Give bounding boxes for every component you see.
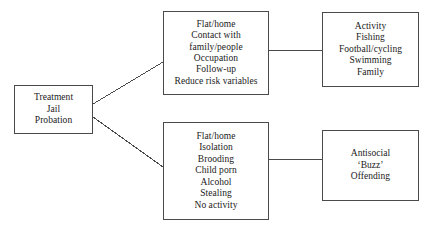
node-line: Jail [47,104,60,115]
node-line: Probation [35,115,72,126]
connector-source-to-positive [93,62,163,104]
node-line: family/people [189,42,242,53]
node-line: Antisocial [351,148,391,159]
node-line: Flat/home [197,19,236,30]
node-line: Football/cycling [339,44,402,55]
node-line: Swimming [349,55,391,66]
node-positive-outcomes[interactable]: Activity Fishing Football/cycling Swimmi… [322,12,419,87]
node-line: Family [357,67,384,78]
connector-source-to-negative [93,117,163,167]
node-line: No activity [194,200,237,211]
node-line: Fishing [356,32,385,43]
node-negative-outcomes[interactable]: Antisocial ‘Buzz’ Offending [322,130,419,201]
node-treatment-jail-probation[interactable]: Treatment Jail Probation [14,85,93,134]
node-positive-lifestyle-factors[interactable]: Flat/home Contact with family/people Occ… [163,11,269,95]
node-line: Brooding [198,154,234,165]
node-line: Flat/home [197,131,236,142]
diagram-canvas: Treatment Jail Probation Flat/home Conta… [0,0,440,232]
node-line: ‘Buzz’ [357,160,383,171]
node-line: Alcohol [201,177,232,188]
node-line: Activity [355,21,387,32]
node-line: Follow-up [196,64,236,75]
node-line: Isolation [199,142,233,153]
node-negative-lifestyle-factors[interactable]: Flat/home Isolation Brooding Child porn … [163,122,269,220]
node-line: Stealing [200,188,232,199]
node-line: Contact with [191,30,240,41]
node-line: Reduce risk variables [175,76,258,87]
node-line: Offending [351,171,390,182]
node-line: Occupation [194,53,238,64]
node-line: Child porn [195,165,236,176]
node-line: Treatment [34,92,73,103]
